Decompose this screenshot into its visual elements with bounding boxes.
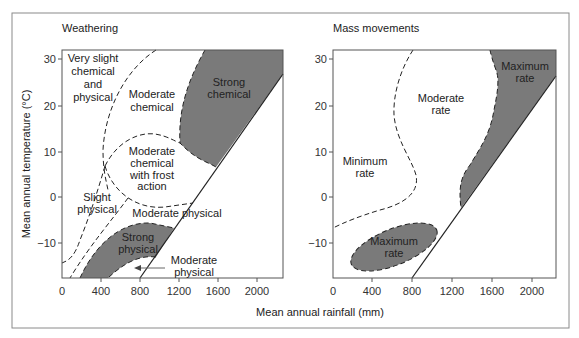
svg-text:30: 30 [44,53,56,65]
svg-text:action: action [137,180,166,192]
svg-text:1200: 1200 [440,285,464,297]
arrow-left-icon [134,265,141,271]
x-axis-label: Mean annual rainfall (mm) [256,306,384,318]
svg-text:Moderate: Moderate [129,88,175,100]
svg-text:0: 0 [50,191,56,203]
svg-text:400: 400 [92,285,110,297]
strong-chemical-region [180,50,283,167]
svg-text:30: 30 [315,53,327,65]
svg-text:Maximum: Maximum [501,60,549,72]
mass-movements-y-ticks: 30 20 10 0 −10 [308,53,333,249]
svg-text:physical: physical [174,266,214,278]
svg-text:800: 800 [403,285,421,297]
svg-text:Moderate physical: Moderate physical [132,207,221,219]
minimum-moderate-boundary [333,50,417,228]
svg-text:Moderate: Moderate [129,145,175,157]
svg-text:Moderate: Moderate [171,254,217,266]
weathering-x-ticks: 0 400 800 1200 1600 2000 [59,278,269,297]
svg-text:0: 0 [59,285,65,297]
svg-text:20: 20 [44,100,56,112]
svg-text:Slight: Slight [83,191,111,203]
svg-text:2000: 2000 [520,285,544,297]
svg-text:1600: 1600 [480,285,504,297]
mass-movements-title: Mass movements [333,22,420,34]
svg-text:0: 0 [321,191,327,203]
svg-text:rate: rate [356,167,375,179]
weathering-title: Weathering [62,22,118,34]
svg-text:Minimum: Minimum [343,155,388,167]
svg-text:Moderate: Moderate [418,92,464,104]
svg-text:10: 10 [315,146,327,158]
y-axis-label: Mean annual temperature (°C) [20,90,32,239]
svg-text:physical: physical [118,243,158,255]
maximum-rate-band-region [460,50,556,208]
svg-text:0: 0 [330,285,336,297]
svg-text:−10: −10 [308,237,327,249]
svg-text:chemical: chemical [71,65,114,77]
svg-text:rate: rate [516,72,535,84]
svg-text:Maximum: Maximum [370,235,418,247]
mass-movements-x-ticks: 0 400 800 1200 1600 2000 [330,278,544,297]
svg-text:Strong: Strong [213,76,245,88]
svg-text:rate: rate [385,247,404,259]
svg-text:physical: physical [77,203,117,215]
weathering-panel: Weathering 30 20 10 0 [20,22,283,297]
svg-text:10: 10 [44,146,56,158]
svg-text:chemical: chemical [130,157,173,169]
svg-text:800: 800 [131,285,149,297]
mass-movements-panel: Mass movements 30 20 10 0 −10 [308,22,556,297]
svg-text:Strong: Strong [122,231,154,243]
svg-text:rate: rate [432,104,451,116]
svg-text:and: and [84,78,102,90]
svg-text:1200: 1200 [167,285,191,297]
svg-text:400: 400 [363,285,381,297]
svg-text:chemical: chemical [130,101,173,113]
svg-text:chemical: chemical [207,88,250,100]
svg-text:1600: 1600 [206,285,230,297]
svg-text:−10: −10 [37,237,56,249]
figure: Weathering 30 20 10 0 [0,0,579,338]
svg-text:2000: 2000 [245,285,269,297]
svg-text:physical: physical [73,91,113,103]
svg-text:20: 20 [315,100,327,112]
weathering-y-ticks: 30 20 10 0 −10 [37,53,62,249]
svg-text:Very slight: Very slight [68,52,119,64]
